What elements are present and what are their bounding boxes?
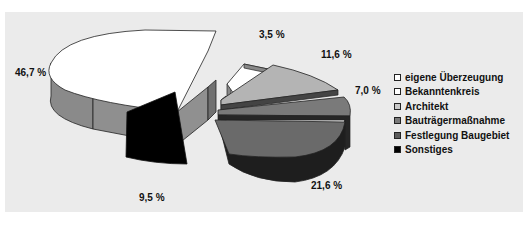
legend-swatch <box>394 103 401 110</box>
legend-swatch <box>394 146 401 153</box>
chart-area: 46,7 % 3,5 % 11,6 % 7,0 % 21,6 % 9,5 % e… <box>5 12 523 212</box>
label-festlegung-baugebiet: 21,6 % <box>311 180 342 191</box>
legend-label: Festlegung Baugebiet <box>405 130 509 141</box>
label-bautraegermassnahme: 7,0 % <box>355 85 381 96</box>
label-eigene-ueberzeugung: 46,7 % <box>15 67 46 78</box>
legend-label: Architekt <box>405 101 448 112</box>
legend-item: eigene Überzeugung <box>394 70 509 85</box>
legend-item: Architekt <box>394 99 509 114</box>
legend-item: Sonstiges <box>394 143 509 158</box>
legend-item: Festlegung Baugebiet <box>394 128 509 143</box>
legend-item: Bekanntenkreis <box>394 85 509 100</box>
legend-label: eigene Überzeugung <box>405 72 503 83</box>
legend-label: Bauträgermaßnahme <box>405 115 505 126</box>
legend-swatch <box>394 88 401 95</box>
legend-item: Bauträgermaßnahme <box>394 114 509 129</box>
label-architekt: 11,6 % <box>321 49 352 60</box>
legend-swatch <box>394 117 401 124</box>
legend: eigene Überzeugung Bekanntenkreis Archit… <box>394 70 509 157</box>
legend-label: Bekanntenkreis <box>405 86 479 97</box>
legend-label: Sonstiges <box>405 144 453 155</box>
slice-festlegung-baugebiet <box>215 120 345 182</box>
legend-swatch <box>394 132 401 139</box>
legend-swatch <box>394 74 401 81</box>
label-sonstiges: 9,5 % <box>139 192 165 203</box>
label-bekanntenkreis: 3,5 % <box>259 29 285 40</box>
